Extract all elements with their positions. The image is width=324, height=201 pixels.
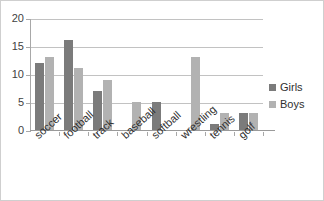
bar-group (235, 18, 264, 130)
legend-label-girls: Girls (280, 82, 303, 93)
bar-girls-soccer (35, 63, 44, 130)
legend-label-boys: Boys (280, 99, 304, 110)
y-tick-label-10: 10 (12, 69, 24, 80)
chart-title-clipped (1, 1, 324, 6)
legend-item-boys[interactable]: Boys (269, 96, 324, 113)
y-tick-mark-15 (26, 47, 30, 48)
bar-girls-football (64, 40, 73, 130)
legend-item-girls[interactable]: Girls (269, 79, 324, 96)
y-tick-label-20: 20 (12, 13, 24, 24)
x-axis-category-labels: soccerfootballtrackbaseballsoftballwrest… (30, 132, 270, 194)
bar-group (89, 18, 118, 130)
y-tick-label-15: 15 (12, 41, 24, 52)
legend-swatch-girls (269, 84, 276, 91)
bar-chart: 05101520 soccerfootballtrackbaseballsoft… (0, 0, 324, 201)
y-tick-mark-20 (26, 19, 30, 20)
legend-swatch-boys (269, 101, 276, 108)
y-tick-mark-10 (26, 75, 30, 76)
y-tick-mark-5 (26, 103, 30, 104)
chart-legend: GirlsBoys (269, 79, 324, 113)
y-tick-label-5: 5 (18, 97, 24, 108)
y-tick-label-0: 0 (18, 125, 24, 136)
